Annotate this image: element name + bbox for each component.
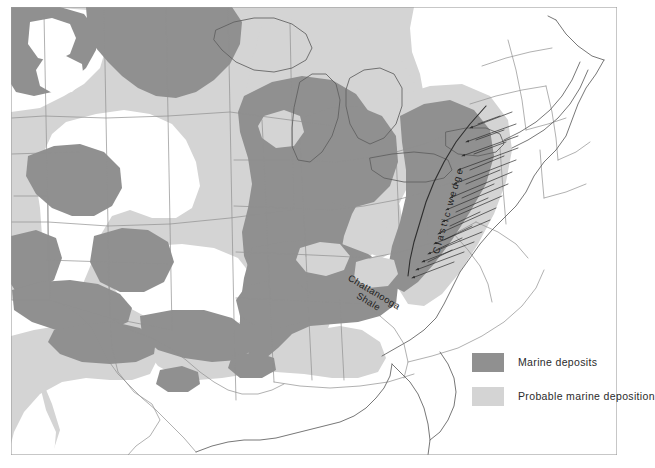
map-legend: Marine deposits Probable marine depositi… bbox=[472, 352, 622, 420]
legend-item-probable-marine-deposition: Probable marine deposition bbox=[472, 386, 622, 406]
probable-marine-deposition-swatch bbox=[472, 387, 504, 406]
legend-item-marine-deposits: Marine deposits bbox=[472, 352, 622, 372]
marine-deposits-swatch bbox=[472, 353, 504, 372]
probable-marine-deposition-label: Probable marine deposition bbox=[518, 390, 655, 402]
marine-deposits-label: Marine deposits bbox=[518, 356, 597, 368]
